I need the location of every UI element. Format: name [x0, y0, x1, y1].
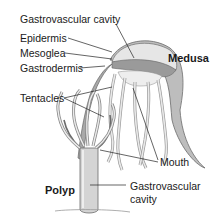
- label-tentacles: Tentacles: [20, 92, 64, 104]
- label-medusa: Medusa: [168, 52, 209, 64]
- cnidarian-diagram: Gastrovascular cavity Epidermis Mesoglea…: [0, 0, 215, 224]
- label-mesoglea: Mesoglea: [20, 47, 66, 59]
- label-epidermis: Epidermis: [20, 32, 67, 44]
- label-polyp: Polyp: [45, 184, 75, 196]
- label-gastrovascular-cavity-polyp-line2: cavity: [130, 193, 157, 205]
- label-gastrodermis: Gastrodermis: [20, 62, 83, 74]
- label-gastrovascular-cavity-polyp-line1: Gastrovascular: [130, 180, 201, 192]
- label-gastrovascular-cavity-medusa: Gastrovascular cavity: [20, 13, 120, 25]
- label-mouth: Mouth: [160, 156, 189, 168]
